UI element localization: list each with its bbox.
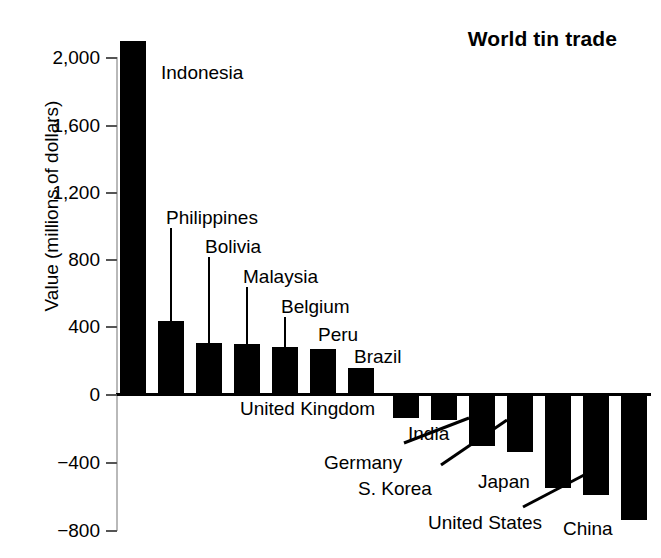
label-brazil: Brazil <box>354 347 402 366</box>
label-peru: Peru <box>318 325 358 344</box>
y-tick-label-2000: 2,000 <box>0 48 100 67</box>
y-tick-label-minus800: −800 <box>0 521 100 540</box>
y-tick-label-1600: 1,600 <box>0 116 100 135</box>
label-bolivia: Bolivia <box>205 237 261 256</box>
bar-brazil <box>348 368 374 394</box>
leader-line-belgium <box>284 317 286 347</box>
y-tick-mark <box>106 530 117 532</box>
bar-s-korea <box>507 396 533 452</box>
y-tick-label-minus400-wrap: −400 <box>0 453 100 472</box>
chart-container: World tin trade Value (millions of dolla… <box>0 0 661 558</box>
y-tick-label-minus400: −400 <box>0 453 100 472</box>
label-indonesia: Indonesia <box>161 63 243 82</box>
bar-malaysia <box>234 344 260 394</box>
leader-line-philippines <box>170 228 172 321</box>
bar-china <box>621 396 647 520</box>
y-tick-label-800: 800 <box>0 250 100 269</box>
label-belgium: Belgium <box>281 297 350 316</box>
chart-title: World tin trade <box>468 27 617 51</box>
leader-line-malaysia <box>246 287 248 344</box>
y-tick-mark <box>106 394 117 396</box>
label-s-korea: S. Korea <box>358 479 432 498</box>
label-united-states: United States <box>428 513 542 532</box>
bar-peru <box>310 349 336 394</box>
label-malaysia: Malaysia <box>243 267 318 286</box>
y-tick-mark <box>106 192 117 194</box>
y-tick-mark <box>106 462 117 464</box>
y-tick-label-400-wrap: 400 <box>0 317 100 336</box>
y-axis-title: Value (millions of dollars) <box>41 61 63 351</box>
label-japan: Japan <box>478 472 530 491</box>
bar-india <box>431 396 457 420</box>
y-tick-label-800-wrap: 800 <box>0 250 100 269</box>
bar-indonesia <box>120 41 146 394</box>
y-tick-label-1600-wrap: 1,600 <box>0 116 100 135</box>
y-tick-mark <box>106 57 117 59</box>
bar-united-states <box>583 396 609 495</box>
y-axis-line <box>116 57 118 531</box>
label-china: China <box>563 519 613 538</box>
label-india: India <box>408 424 449 443</box>
y-tick-label-400: 400 <box>0 317 100 336</box>
y-tick-label-1200-wrap: 1,200 <box>0 183 100 202</box>
bar-belgium <box>272 347 298 394</box>
y-tick-label-0-wrap: 0 <box>0 385 100 404</box>
label-germany: Germany <box>324 453 402 472</box>
y-tick-mark <box>106 326 117 328</box>
y-tick-label-2000-wrap: 2,000 <box>0 48 100 67</box>
y-tick-label-minus800-wrap: −800 <box>0 521 100 540</box>
y-tick-mark <box>106 125 117 127</box>
label-united-kingdom: United Kingdom <box>240 399 375 418</box>
y-tick-mark <box>106 259 117 261</box>
bar-united-kingdom <box>393 396 419 418</box>
label-philippines: Philippines <box>166 208 258 227</box>
bar-philippines <box>158 321 184 394</box>
leader-line-bolivia <box>208 257 210 343</box>
y-tick-label-0: 0 <box>0 385 100 404</box>
bar-germany <box>469 396 495 446</box>
bar-japan <box>545 396 571 488</box>
y-tick-label-1200: 1,200 <box>0 183 100 202</box>
bar-bolivia <box>196 343 222 394</box>
